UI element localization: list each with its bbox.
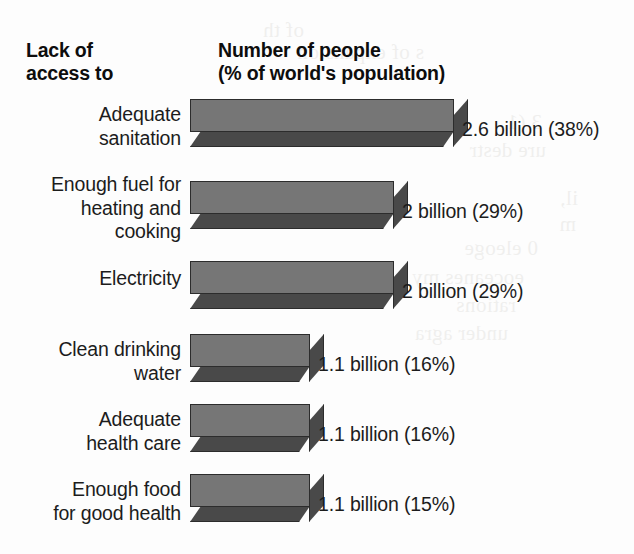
bar-bottom-face [190,366,310,382]
bar-bottom-face [190,131,454,147]
column-header-value-line2: (% of world's population) [218,62,445,85]
bar [190,474,310,522]
category-label-line: for good health [53,502,181,526]
value-label: 2 billion (29%) [402,280,523,302]
value-label: 2 billion (29%) [402,200,523,222]
value-label: 1.1 billion (15%) [318,493,455,515]
category-label-line: sanitation [99,127,181,151]
category-label-line: Clean drinking [58,338,181,360]
category-label-line: Adequate [99,103,181,125]
category-label-line: cooking [51,220,181,244]
bar-front-face [190,261,394,294]
bar [190,99,454,147]
category-label-line: health care [86,432,181,456]
bar-bottom-face [190,293,394,309]
column-header-category-line1: Lack of [26,39,93,61]
horizontal-bar-chart: Lack of access to Number of people (% of… [0,0,634,554]
value-label: 2.6 billion (38%) [462,118,599,140]
bar-front-face [190,474,310,507]
category-label: Adequatehealth care [86,408,181,455]
column-header-value: Number of people (% of world's populatio… [218,39,445,85]
category-label: Enough foodfor good health [53,478,181,525]
bar-front-face [190,334,310,367]
category-label: Clean drinkingwater [58,338,181,385]
bar-bottom-face [190,436,310,452]
column-header-value-line1: Number of people [218,39,381,61]
bar [190,261,394,309]
bar-front-face [190,181,394,214]
category-label-line: heating and [51,197,181,221]
category-label-line: Adequate [99,408,181,430]
column-header-category-line2: access to [26,62,113,85]
category-label-line: Electricity [99,267,181,289]
bar [190,334,310,382]
category-label-line: water [58,362,181,386]
bar-bottom-face [190,213,394,229]
bar [190,181,394,229]
bar [190,404,310,452]
category-label: Enough fuel forheating andcooking [51,173,181,244]
value-label: 1.1 billion (16%) [318,353,455,375]
category-label: Electricity [99,267,181,291]
category-label-line: Enough food [72,478,181,500]
bar-front-face [190,404,310,437]
category-label: Adequatesanitation [99,103,181,150]
bar-bottom-face [190,506,310,522]
bar-front-face [190,99,454,132]
value-label: 1.1 billion (16%) [318,423,455,445]
category-label-line: Enough fuel for [51,173,181,195]
column-header-category: Lack of access to [26,39,113,85]
